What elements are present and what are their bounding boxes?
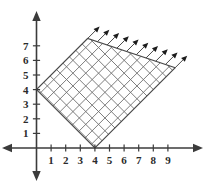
- y-tick-label-6: 6: [23, 54, 29, 66]
- hatch-line-1-25: [0, 0, 206, 183]
- hatch-line-0-5: [0, 0, 206, 183]
- hatch-line-0-1: [0, 0, 206, 183]
- y-tick-label-5: 5: [23, 69, 29, 81]
- region-arrow-shaft-5: [136, 47, 144, 55]
- hatch-line-1-12: [0, 0, 206, 183]
- y-tick-label-3: 3: [23, 98, 29, 110]
- hatch-line-1-7: [0, 0, 206, 183]
- hatch-line-1--26: [0, 0, 206, 183]
- hatch-line-1-5: [0, 0, 206, 183]
- hatch-line-1-30: [0, 0, 206, 183]
- hatch-line-0--18: [0, 0, 206, 183]
- hatch-line-0-2: [0, 0, 206, 183]
- hatch-line-0-11: [0, 0, 206, 183]
- hatch-line-0--23: [0, 0, 206, 183]
- x-axis-right-arrow-icon: [193, 144, 203, 152]
- hatch-line-0-13: [0, 0, 206, 183]
- hatch-line-0--13: [0, 0, 206, 183]
- region-arrow-shaft-6: [146, 50, 154, 58]
- hatch-line-0-27: [0, 0, 206, 183]
- y-tick-label-2: 2: [23, 113, 29, 125]
- hatch-line-1-23: [0, 0, 206, 183]
- hatch-line-0--20: [0, 0, 206, 183]
- hatch-line-0-29: [0, 0, 206, 183]
- hatch-line-1-21: [0, 0, 206, 183]
- hatch-line-1--30: [0, 0, 204, 183]
- hatch-line-1-11: [0, 0, 206, 183]
- hatch-line-1-2: [0, 0, 206, 183]
- hatch-line-1--29: [0, 0, 206, 183]
- hatch-line-1-15: [0, 0, 206, 183]
- hatch-line-1--6: [0, 0, 206, 183]
- hatch-line-0-25: [0, 0, 206, 183]
- hatch-line-0-26: [0, 0, 206, 183]
- hatch-line-0--22: [0, 0, 206, 183]
- hatch-line-0--28: [0, 0, 206, 183]
- x-tick-label-2: 2: [63, 154, 69, 166]
- hatch-line-0--12: [0, 0, 206, 183]
- hatch-line-0-21: [0, 0, 206, 183]
- hatch-line-1--11: [0, 0, 206, 183]
- y-axis-tick-labels: 1234567: [23, 40, 29, 140]
- hatch-line-1--3: [0, 0, 206, 183]
- hatch-line-0--19: [0, 0, 206, 183]
- hatch-line-1--20: [0, 0, 206, 183]
- hatch-line-1--28: [0, 0, 206, 183]
- hatch-line-1--8: [0, 0, 206, 183]
- hatch-line-1-16: [0, 0, 206, 183]
- hatch-line-0-24: [0, 0, 206, 183]
- region-arrow-shaft-8: [165, 57, 173, 65]
- region-arrow-shaft-1: [97, 34, 105, 42]
- hatch-line-0-12: [0, 0, 206, 183]
- region-arrow-shaft-2: [107, 37, 115, 45]
- coordinate-graph: 123456789 1234567: [0, 0, 206, 183]
- hatch-line-1-26: [0, 0, 206, 183]
- hatch-line-1-29: [0, 0, 206, 183]
- hatch-line-0-9: [0, 0, 206, 183]
- hatch-line-0--15: [0, 0, 206, 183]
- hatch-line-0-18: [0, 0, 206, 183]
- hatch-line-1-10: [0, 0, 206, 183]
- hatch-line-0--17: [0, 0, 206, 183]
- hatch-line-1-0: [0, 0, 206, 183]
- hatch-line-1-24: [0, 0, 206, 183]
- y-tick-label-1: 1: [23, 127, 29, 139]
- hatch-line-1-28: [0, 0, 206, 183]
- hatch-line-1--14: [0, 0, 206, 183]
- hatch-line-1-18: [0, 0, 206, 183]
- hatch-line-0--21: [0, 0, 206, 183]
- x-axis-left-arrow-icon: [2, 144, 12, 152]
- hatch-line-1--19: [0, 0, 206, 183]
- hatch-line-0-3: [0, 0, 206, 183]
- hatch-line-0-16: [0, 0, 206, 183]
- hatch-line-1-17: [0, 0, 206, 183]
- hatch-line-1--22: [0, 0, 206, 183]
- x-tick-label-7: 7: [136, 154, 142, 166]
- hatch-line-0-4: [0, 0, 206, 183]
- region-hatching: [0, 0, 206, 183]
- y-tick-label-7: 7: [23, 40, 29, 52]
- x-tick-label-5: 5: [107, 154, 113, 166]
- hatch-line-1-3: [0, 0, 206, 183]
- hatch-line-1--23: [0, 0, 206, 183]
- hatch-line-0-19: [0, 0, 206, 183]
- hatch-line-1--25: [0, 0, 206, 183]
- hatch-line-0--25: [0, 0, 206, 183]
- hatch-line-1--15: [0, 0, 206, 183]
- hatch-line-1--13: [0, 0, 206, 183]
- y-axis-up-arrow-icon: [32, 11, 40, 21]
- hatch-line-1--2: [0, 0, 206, 183]
- hatch-line-1-6: [0, 0, 206, 183]
- hatch-line-0--8: [0, 0, 206, 183]
- hatch-line-0-6: [0, 0, 206, 183]
- hatch-line-0-7: [0, 0, 206, 183]
- hatch-line-0--3: [0, 0, 206, 183]
- hatch-line-0-0: [0, 0, 206, 183]
- hatch-line-1-20: [0, 0, 206, 183]
- x-axis-tick-labels: 123456789: [48, 154, 171, 166]
- hatch-line-1-8: [0, 0, 206, 183]
- hatch-line-0-8: [0, 0, 206, 183]
- hatch-line-1--12: [0, 0, 206, 183]
- hatch-line-1-27: [0, 0, 206, 183]
- hatch-line-0-14: [0, 0, 206, 183]
